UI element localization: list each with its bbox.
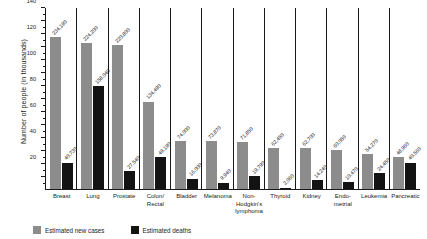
y-tick: 80 bbox=[41, 137, 45, 138]
y-tick: 60 bbox=[41, 150, 45, 151]
legend-label-new-cases: Estimated new cases bbox=[45, 227, 105, 234]
y-tick-label: 20 bbox=[30, 156, 36, 162]
bar-value-label: 14,240 bbox=[313, 164, 328, 179]
legend-label-deaths: Estimated deaths bbox=[143, 227, 192, 234]
bar-group: 74,00016,000 bbox=[171, 8, 202, 189]
y-tick-minor bbox=[43, 53, 46, 54]
bar-value-label: 62,450 bbox=[270, 133, 285, 148]
y-tick-label: 120 bbox=[27, 26, 36, 32]
bar-value-label: 74,000 bbox=[176, 125, 191, 140]
bar-new-cases: 71,850 bbox=[237, 142, 248, 189]
bar-group: 234,19040,730 bbox=[46, 8, 77, 189]
y-tick-minor bbox=[43, 27, 46, 28]
bar-deaths: 2,060 bbox=[280, 188, 291, 189]
y-tick-minor bbox=[43, 105, 46, 106]
chart-legend: Estimated new cases Estimated deaths bbox=[33, 226, 191, 234]
category-label: Leukemia bbox=[359, 193, 390, 216]
x-axis-category-labels: BreastLungProstateColon/RectalBladderMel… bbox=[46, 193, 421, 216]
legend-swatch-deaths bbox=[131, 226, 139, 234]
bar-value-label: 40,560 bbox=[407, 147, 422, 162]
y-tick-minor bbox=[43, 183, 46, 184]
bar-value-label: 19,790 bbox=[251, 160, 266, 175]
bar-value-label: 60,050 bbox=[333, 134, 348, 149]
y-tick-label: 60 bbox=[30, 104, 36, 110]
y-tick-minor bbox=[43, 157, 46, 158]
y-tick: 280 bbox=[41, 7, 45, 8]
y-tick: 220 bbox=[41, 46, 45, 47]
bar-deaths: 40,560 bbox=[405, 163, 416, 189]
y-tick: 260 bbox=[41, 20, 45, 21]
y-tick: 240 bbox=[41, 33, 45, 34]
category-label: Thyroid bbox=[265, 193, 296, 216]
y-tick-minor bbox=[43, 79, 46, 80]
bar-new-cases: 74,000 bbox=[175, 141, 186, 189]
bar-value-label: 49,190 bbox=[157, 141, 172, 156]
bar-new-cases: 60,050 bbox=[331, 150, 342, 189]
y-tick: 140 bbox=[41, 98, 45, 99]
bar-deaths: 27,540 bbox=[124, 171, 135, 189]
bar-group: 134,49049,190 bbox=[140, 8, 171, 189]
y-tick-minor bbox=[43, 144, 46, 145]
bar-new-cases: 62,700 bbox=[300, 148, 311, 189]
bar-groups: 234,19040,730224,200158,040220,80027,540… bbox=[46, 8, 420, 189]
bar-new-cases: 234,190 bbox=[50, 37, 61, 189]
bar-deaths: 49,190 bbox=[155, 157, 166, 189]
x-axis-line bbox=[45, 189, 420, 190]
y-tick: 180 bbox=[41, 72, 45, 73]
category-label: Prostate bbox=[109, 193, 140, 216]
bar-value-label: 134,490 bbox=[145, 84, 162, 101]
bar-new-cases: 54,270 bbox=[362, 154, 373, 189]
bar-deaths: 14,240 bbox=[312, 180, 323, 189]
y-tick-label: 40 bbox=[30, 130, 36, 136]
y-tick-minor bbox=[43, 92, 46, 93]
y-tick-label: 80 bbox=[30, 78, 36, 84]
bar-value-label: 27,540 bbox=[126, 155, 141, 170]
category-label: Bladder bbox=[171, 193, 202, 216]
bar-value-label: 71,850 bbox=[239, 126, 254, 141]
y-tick: 40 bbox=[41, 163, 45, 164]
y-tick: 200 bbox=[41, 59, 45, 60]
bar-deaths: 40,730 bbox=[62, 163, 73, 189]
bar-new-cases: 62,450 bbox=[268, 148, 279, 189]
y-tick-minor bbox=[43, 118, 46, 119]
category-label: Pancreatic bbox=[390, 193, 421, 216]
bar-group: 73,8709,940 bbox=[202, 8, 233, 189]
bar-group: 71,85019,790 bbox=[234, 8, 265, 189]
bar-new-cases: 224,200 bbox=[81, 43, 92, 189]
category-label: Kidney bbox=[296, 193, 327, 216]
legend-item-new-cases: Estimated new cases bbox=[33, 226, 105, 234]
bar-value-label: 40,730 bbox=[63, 147, 78, 162]
bar-value-label: 62,700 bbox=[301, 132, 316, 147]
bar-new-cases: 134,490 bbox=[143, 102, 154, 189]
y-axis-title: Number of people (in thousands) bbox=[20, 22, 27, 162]
category-label: Breast bbox=[46, 193, 77, 216]
y-tick-label: 140 bbox=[27, 0, 36, 5]
bar-group: 62,70014,240 bbox=[296, 8, 327, 189]
bar-value-label: 73,870 bbox=[208, 125, 223, 140]
bar-deaths: 9,940 bbox=[218, 183, 229, 189]
cancer-statistics-bar-chart: Number of people (in thousands) 20406080… bbox=[0, 0, 427, 239]
bar-deaths: 19,790 bbox=[249, 176, 260, 189]
category-label: Melanoma bbox=[202, 193, 233, 216]
legend-item-deaths: Estimated deaths bbox=[131, 226, 192, 234]
category-label: Colon/Rectal bbox=[140, 193, 171, 216]
bar-value-label: 54,270 bbox=[364, 138, 379, 153]
bar-value-label: 9,940 bbox=[220, 169, 233, 182]
y-tick-minor bbox=[43, 14, 46, 15]
bar-group: 54,27024,450 bbox=[359, 8, 390, 189]
bar-value-label: 220,800 bbox=[114, 28, 131, 45]
bar-value-label: 234,190 bbox=[51, 19, 68, 36]
bar-value-label: 10,470 bbox=[345, 166, 360, 181]
y-tick-minor bbox=[43, 170, 46, 171]
y-tick-minor bbox=[43, 66, 46, 67]
bar-group: 224,200158,040 bbox=[77, 8, 108, 189]
bar-new-cases: 220,800 bbox=[112, 45, 123, 189]
bar-value-label: 16,000 bbox=[188, 163, 203, 178]
category-label: Lung bbox=[77, 193, 108, 216]
legend-swatch-new-cases bbox=[33, 226, 41, 234]
category-label: Non-Hodgkin'slymphoma bbox=[234, 193, 265, 216]
y-tick-minor bbox=[43, 40, 46, 41]
bar-value-label: 2,060 bbox=[282, 174, 295, 187]
bar-value-label: 24,450 bbox=[376, 157, 391, 172]
y-tick: 120 bbox=[41, 111, 45, 112]
